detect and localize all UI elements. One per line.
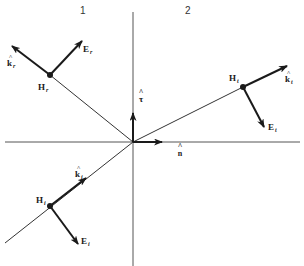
k-incident-arrow-icon	[50, 178, 86, 206]
E-reflected-arrow-icon	[50, 41, 82, 75]
tau-hat-label: ^ τ	[139, 88, 144, 104]
svg-text:ki: ki	[75, 169, 83, 180]
k-transmitted-label: ^kt	[285, 69, 293, 85]
wave-reflection-diagram: 1 2 ^ n ^ τ Hi^kiEiHr^krErHt^ktEt	[0, 0, 304, 266]
n-hat-label: ^ n	[178, 142, 183, 158]
region-1-label: 1	[80, 5, 86, 16]
H-reflected-label: Hr	[38, 82, 49, 93]
k-incident-label: ^ki	[75, 164, 83, 180]
incident-wave-group: Hi^kiEi	[36, 164, 90, 247]
k-transmitted-arrow-icon	[243, 66, 287, 87]
k-reflected-arrow-icon	[12, 46, 50, 75]
E-incident-label: Ei	[81, 236, 90, 247]
H-incident-point-icon	[47, 203, 53, 209]
reflected-wave-group: Hr^krEr	[7, 41, 93, 93]
transmitted-ray-line	[133, 87, 243, 142]
E-incident-arrow-icon	[50, 206, 78, 244]
region-2-label: 2	[185, 5, 191, 16]
svg-text:kt: kt	[285, 74, 293, 85]
svg-text:kr: kr	[7, 58, 16, 69]
H-reflected-point-icon	[47, 72, 53, 78]
E-transmitted-label: Et	[268, 122, 277, 133]
E-reflected-label: Er	[83, 44, 93, 55]
transmitted-wave-group: Ht^ktEt	[229, 66, 293, 133]
H-transmitted-point-icon	[240, 84, 246, 90]
k-reflected-label: ^kr	[7, 53, 16, 69]
H-incident-label: Hi	[36, 195, 46, 206]
svg-text:n: n	[178, 149, 183, 158]
incident-ray-line	[5, 142, 133, 243]
E-transmitted-arrow-icon	[243, 87, 264, 127]
H-transmitted-label: Ht	[229, 73, 239, 84]
reflected-ray-line	[50, 75, 133, 142]
